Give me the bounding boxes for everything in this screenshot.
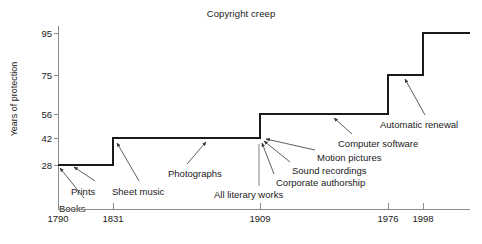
leader-line-computer-software: [334, 118, 352, 134]
leader-line-photographs: [187, 142, 206, 164]
leader-line-books: [60, 168, 84, 198]
chart-container: Copyright creep Years of protection 95 7…: [0, 0, 482, 244]
plot-area: [0, 0, 482, 244]
step-line-series: [58, 33, 470, 165]
leader-line-automatic-renewal: [405, 79, 425, 115]
leader-line-prints: [74, 167, 95, 181]
leader-line-sheet-music: [117, 143, 139, 181]
